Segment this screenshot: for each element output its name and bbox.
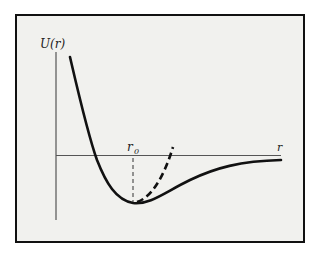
r0-subscript: 0 bbox=[134, 147, 139, 156]
potential-curve bbox=[70, 57, 281, 203]
y-axis-label: U(r) bbox=[40, 37, 66, 51]
r0-label: r bbox=[127, 140, 134, 154]
x-axis-label: r bbox=[277, 141, 283, 154]
potential-diagram: U(r) r r 0 bbox=[0, 0, 316, 259]
